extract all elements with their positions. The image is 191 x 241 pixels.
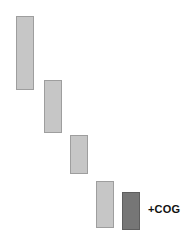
waterfall-bar-3 <box>70 135 88 174</box>
waterfall-bar-5-cog <box>122 192 140 230</box>
waterfall-bar-4 <box>96 181 114 228</box>
waterfall-bar-2 <box>44 80 62 133</box>
waterfall-chart: +COG <box>0 0 191 241</box>
cog-annotation-label: +COG <box>148 204 180 215</box>
waterfall-bar-1 <box>16 16 34 90</box>
